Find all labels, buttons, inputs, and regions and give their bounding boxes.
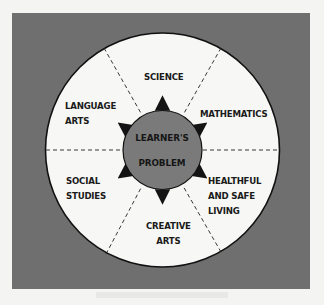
label-mathematics: MATHEMATICS xyxy=(200,107,268,122)
label-language-arts: LANGUAGE ARTS xyxy=(65,99,116,129)
curriculum-wheel xyxy=(0,0,324,305)
label-healthful-and-safe-living: HEALTHFUL AND SAFE LIVING xyxy=(208,174,261,219)
center-label-line2: PROBLEM xyxy=(122,158,202,168)
center-label-line1: LEARNER'S xyxy=(122,133,202,143)
label-science: SCIENCE xyxy=(144,70,184,85)
label-creative-arts: CREATIVE ARTS xyxy=(146,219,191,249)
inner-circle xyxy=(123,111,202,190)
caption-faded xyxy=(96,292,228,298)
label-social-studies: SOCIAL STUDIES xyxy=(66,174,106,204)
